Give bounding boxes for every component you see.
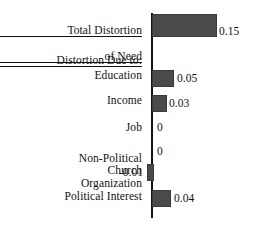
bar-value-church: -0.01: [110, 166, 143, 178]
bar-church: [147, 164, 154, 181]
bar-value-non-political: 0: [157, 145, 163, 157]
bar-total-distortion: [152, 14, 217, 37]
bar-value-political-interest: 0.04: [174, 192, 194, 204]
bar-value-education: 0.05: [177, 72, 197, 84]
zero-axis-line: [151, 13, 153, 218]
bar-value-total-distortion: 0.15: [219, 25, 239, 37]
plot-area: 0.15 0.05 0.03 0 0 -0.01 0.04: [0, 0, 272, 230]
bar-value-job: 0: [157, 121, 163, 133]
bar-education: [152, 70, 174, 87]
bar-political-interest: [152, 190, 171, 207]
bar-chart: Total Distortion of Need Distortion Due …: [0, 0, 272, 230]
bar-value-income: 0.03: [169, 97, 189, 109]
bar-income: [152, 95, 167, 112]
